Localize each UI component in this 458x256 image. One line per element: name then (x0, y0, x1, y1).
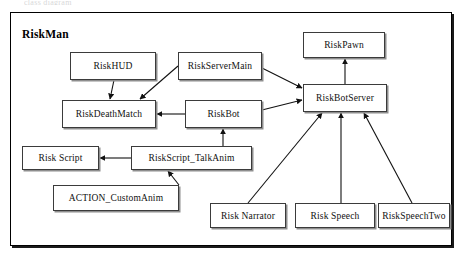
class-node-riskScript[interactable]: Risk Script (22, 146, 99, 170)
class-node-riskBotServer[interactable]: RiskBotServer (303, 84, 387, 112)
class-node-riskSpeech[interactable]: Risk Speech (295, 203, 375, 228)
class-node-riskNarrator[interactable]: Risk Narrator (210, 203, 286, 228)
diagram-canvas: class diagram RiskMan RiskHUDRiskServerM… (0, 0, 458, 256)
package-title: RiskMan (22, 28, 69, 40)
class-node-riskDeathMatch[interactable]: RiskDeathMatch (62, 100, 156, 128)
class-node-label: RiskServerMain (188, 61, 252, 71)
class-node-label: RiskHUD (93, 61, 132, 71)
class-node-label: ACTION_CustomAnim (69, 193, 163, 203)
class-node-label: Risk Narrator (221, 211, 275, 221)
class-node-riskServerMain[interactable]: RiskServerMain (178, 52, 262, 80)
class-node-label: RiskBot (207, 109, 239, 119)
class-node-riskPawn[interactable]: RiskPawn (303, 32, 385, 58)
class-node-actionCustomAnim[interactable]: ACTION_CustomAnim (53, 185, 179, 211)
class-node-riskSpeechTwo[interactable]: RiskSpeechTwo (378, 203, 450, 228)
class-node-label: RiskDeathMatch (76, 109, 142, 119)
class-node-riskHUD[interactable]: RiskHUD (70, 52, 156, 80)
class-node-label: RiskPawn (324, 40, 364, 50)
cut-off-caption: class diagram (24, 0, 224, 5)
class-node-label: Risk Speech (311, 211, 360, 221)
class-node-label: RiskSpeechTwo (382, 211, 446, 221)
class-node-riskBot[interactable]: RiskBot (185, 100, 262, 128)
class-node-label: RiskBotServer (316, 93, 374, 103)
class-node-label: RiskScript_TalkAnim (148, 153, 234, 163)
class-node-riskScriptTalkAnim[interactable]: RiskScript_TalkAnim (131, 146, 252, 170)
class-node-label: Risk Script (38, 153, 82, 163)
